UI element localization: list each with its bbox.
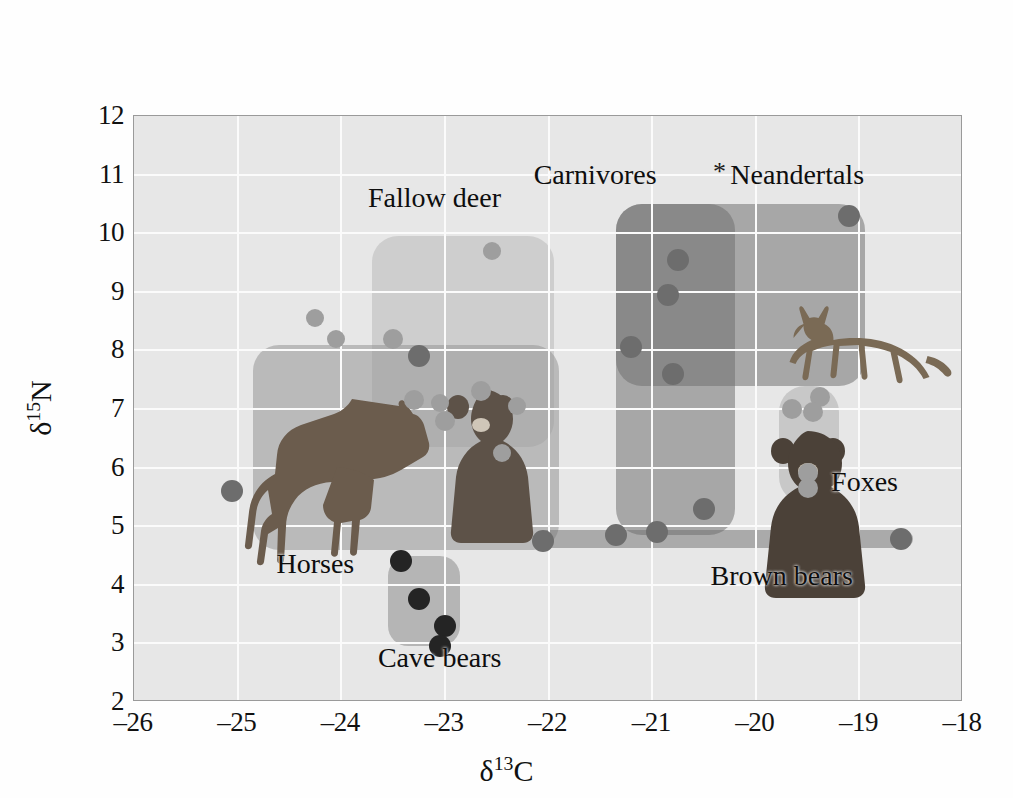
data-point — [838, 205, 860, 227]
x-tick-label: –21 — [606, 707, 696, 738]
y-tick-label: 7 — [80, 393, 124, 424]
x-axis-title-element: C — [513, 754, 533, 787]
data-point — [431, 394, 449, 412]
x-tick-label: –22 — [503, 707, 593, 738]
y-tick-label: 9 — [80, 275, 124, 306]
data-point — [798, 478, 818, 498]
data-point — [306, 309, 324, 327]
y-tick-label: 12 — [80, 100, 124, 131]
data-point — [667, 249, 689, 271]
data-point — [434, 615, 456, 637]
group-label-fallow-deer: Fallow deer — [368, 182, 501, 214]
gridline-horizontal — [134, 291, 961, 293]
fallow-deer-image — [350, 115, 520, 116]
x-axis-title: δ13C — [0, 752, 1013, 788]
y-axis-title-delta: δ — [24, 422, 57, 436]
x-tick-label: –25 — [192, 707, 282, 738]
data-point — [404, 390, 424, 410]
asterisk-marker: * — [713, 159, 726, 185]
data-point — [803, 402, 823, 422]
y-tick-label: 3 — [80, 627, 124, 658]
x-tick-label: –24 — [295, 707, 385, 738]
data-point — [408, 588, 430, 610]
x-axis-tick-labels: –26–25–24–23–22–21–20–19–18 — [0, 707, 1013, 747]
y-tick-label: 6 — [80, 451, 124, 482]
data-point — [383, 329, 403, 349]
x-tick-label: –20 — [710, 707, 800, 738]
gridline-horizontal — [134, 642, 961, 644]
data-point — [327, 330, 345, 348]
group-label-horses: Horses — [276, 548, 354, 580]
data-point — [646, 521, 668, 543]
y-tick-label: 5 — [80, 510, 124, 541]
x-tick-label: –19 — [813, 707, 903, 738]
group-label-cave-bears: Cave bears — [378, 642, 502, 674]
data-point — [390, 550, 412, 572]
x-tick-label: –23 — [399, 707, 489, 738]
y-tick-label: 11 — [80, 158, 124, 189]
fox-image — [777, 304, 952, 409]
data-point — [662, 363, 684, 385]
y-axis-title-superscript: 15 — [22, 402, 44, 422]
x-axis-title-superscript: 13 — [494, 752, 514, 774]
y-tick-label: 4 — [80, 568, 124, 599]
carnivore-cat-image — [525, 115, 685, 116]
data-point — [693, 498, 715, 520]
data-point — [493, 444, 511, 462]
data-point — [435, 411, 455, 431]
x-axis-title-delta: δ — [480, 754, 494, 787]
y-axis-tick-labels: 23456789101112 — [76, 115, 124, 701]
data-point — [221, 480, 243, 502]
group-label-brown-bears: Brown bears — [711, 560, 853, 592]
data-point — [408, 345, 430, 367]
data-point — [890, 528, 912, 550]
x-tick-label: –26 — [88, 707, 178, 738]
x-tick-label: –18 — [917, 707, 1007, 738]
data-point — [508, 397, 526, 415]
y-axis-title-element: N — [24, 380, 57, 402]
data-point — [532, 530, 554, 552]
data-point — [605, 524, 627, 546]
data-point — [782, 399, 802, 419]
y-tick-label: 10 — [80, 217, 124, 248]
isotope-scatter-figure: δ15N δ13C 23456789101112 –26–25–24–23–22… — [0, 0, 1013, 798]
group-label-carnivores: Carnivores — [534, 159, 657, 191]
data-point — [471, 381, 491, 401]
group-label-neandertals: Neandertals — [730, 159, 864, 191]
gridline-horizontal — [134, 232, 961, 234]
group-label-foxes: Foxes — [831, 466, 898, 498]
y-axis-title: δ15N — [22, 380, 58, 436]
data-point — [657, 284, 679, 306]
plot-area: *Fallow deerHorsesCarnivoresNeandertalsF… — [133, 115, 962, 701]
data-point — [483, 242, 501, 260]
data-point — [620, 336, 642, 358]
y-tick-label: 8 — [80, 334, 124, 365]
